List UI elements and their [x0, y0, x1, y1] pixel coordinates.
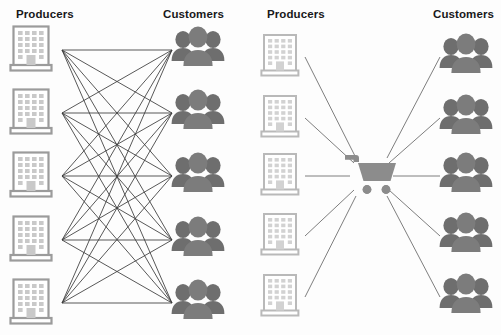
producer-node[interactable]: [9, 23, 53, 77]
customer-group-icon: [438, 33, 494, 77]
customer-node[interactable]: [438, 273, 494, 321]
panel-marketplace-network: Producers Customers: [250, 0, 501, 335]
producer-node[interactable]: [9, 86, 53, 140]
customer-node[interactable]: [438, 152, 494, 200]
customer-node[interactable]: [438, 94, 494, 142]
producer-node[interactable]: [9, 149, 53, 203]
customer-group-icon: [438, 94, 494, 138]
panel-direct-network: Producers Customers: [0, 0, 250, 335]
marketplace-hub[interactable]: [339, 148, 401, 204]
customer-node[interactable]: [170, 26, 226, 74]
customer-group-icon: [170, 89, 226, 133]
office-building-icon: [260, 93, 300, 139]
office-building-icon: [9, 86, 53, 136]
customer-group-icon: [170, 216, 226, 260]
producer-node[interactable]: [260, 211, 300, 261]
customer-group-icon: [170, 152, 226, 196]
producer-node[interactable]: [260, 93, 300, 143]
customer-node[interactable]: [438, 33, 494, 81]
customer-node[interactable]: [170, 89, 226, 137]
producer-node[interactable]: [260, 272, 300, 322]
producer-node[interactable]: [9, 276, 53, 330]
customer-node[interactable]: [438, 212, 494, 260]
customer-group-icon: [438, 152, 494, 196]
office-building-icon: [9, 149, 53, 199]
producer-node[interactable]: [260, 151, 300, 201]
customer-group-icon: [438, 212, 494, 256]
diagram-canvas: Producers Customers: [0, 0, 501, 335]
customer-node[interactable]: [170, 279, 226, 327]
shopping-cart-icon: [339, 148, 401, 200]
customer-group-icon: [438, 273, 494, 317]
customer-node[interactable]: [170, 152, 226, 200]
office-building-icon: [9, 213, 53, 263]
office-building-icon: [9, 276, 53, 326]
office-building-icon: [260, 32, 300, 78]
office-building-icon: [260, 151, 300, 197]
producer-node[interactable]: [260, 32, 300, 82]
customer-node[interactable]: [170, 216, 226, 264]
customer-group-icon: [170, 26, 226, 70]
office-building-icon: [9, 23, 53, 73]
customer-group-icon: [170, 279, 226, 323]
producer-node[interactable]: [9, 213, 53, 267]
office-building-icon: [260, 211, 300, 257]
office-building-icon: [260, 272, 300, 318]
